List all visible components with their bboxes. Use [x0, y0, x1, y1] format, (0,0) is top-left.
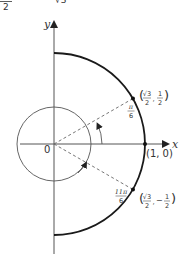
angle-label-eleven-pi-over-6: 11π 6: [115, 188, 128, 205]
svg-text:1: 1: [158, 90, 162, 98]
point-pi-over-6-label: ( √3 2 , 1 2 ): [139, 88, 169, 107]
svg-text:2: 2: [158, 99, 162, 107]
svg-text:π: π: [128, 103, 134, 111]
svg-text:): ): [171, 191, 176, 206]
svg-text:2: 2: [145, 202, 149, 210]
y-axis-label: y: [43, 18, 51, 31]
svg-text:6: 6: [119, 197, 123, 205]
svg-text:√3: √3: [143, 193, 151, 201]
point-one-zero: [143, 142, 147, 146]
svg-text:2: 2: [165, 202, 169, 210]
svg-text:6: 6: [129, 112, 133, 120]
point-pi-over-6: [131, 97, 135, 101]
radius-pi-over-6: [54, 99, 133, 145]
svg-text:,: ,: [153, 198, 155, 206]
svg-text:2: 2: [145, 99, 149, 107]
radius-eleven-pi-over-6: [54, 144, 133, 190]
svg-text:−: −: [156, 196, 163, 205]
pi-over-6-angle-arc: [98, 124, 103, 144]
point-one-zero-label: (1, 0): [146, 148, 173, 159]
origin-label: 0: [44, 144, 50, 155]
svg-text:): ): [164, 88, 169, 103]
header-fragment-left: 2: [3, 2, 9, 12]
x-axis-label: x: [172, 138, 179, 151]
svg-text:11π: 11π: [115, 188, 128, 196]
svg-text:1: 1: [165, 193, 169, 201]
header-fragment: 2 √3: [0, 0, 66, 12]
unit-circle-diagram: 2 √3 x y 0 (1, 0) π 6 ( √3 2 , 1 2 ): [0, 0, 196, 266]
header-fragment-right: √3: [55, 0, 66, 5]
svg-text:,: ,: [153, 95, 155, 103]
angle-label-pi-over-6: π 6: [128, 103, 135, 120]
point-eleven-pi-over-6-label: ( √3 2 , − 1 2 ): [139, 191, 176, 210]
point-eleven-pi-over-6: [131, 188, 135, 192]
svg-text:√3: √3: [143, 90, 151, 98]
